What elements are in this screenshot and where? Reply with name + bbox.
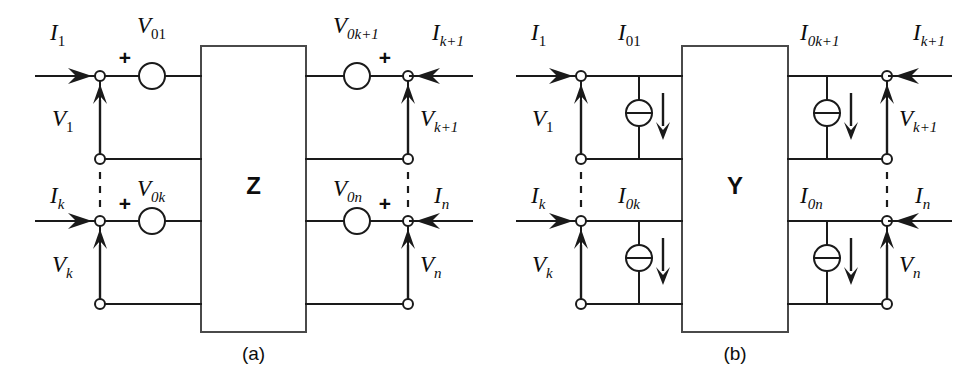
- block-y-label: Y: [727, 172, 743, 199]
- label-vk-a: Vk: [52, 252, 73, 281]
- terminal-node-portk-bottom-a: [95, 299, 105, 309]
- label-vk1-b: Vk+1: [899, 106, 937, 135]
- label-vk1-a: Vk+1: [420, 106, 458, 135]
- voltage-source-v0k1: [344, 63, 370, 89]
- label-i01-b: I01: [617, 20, 641, 49]
- terminal-node-portk-top-b: [576, 216, 586, 226]
- panel-a: Z I1 V01 + V1 Ik V0k +: [36, 13, 472, 364]
- polarity-plus-v01: +: [119, 46, 131, 69]
- label-i0k-b: I0k: [617, 183, 640, 212]
- terminal-node-port1-top-b: [576, 71, 586, 81]
- circuit-svg: Z I1 V01 + V1 Ik V0k +: [0, 0, 980, 384]
- label-ik1-a: Ik+1: [431, 20, 464, 49]
- label-in-b: In: [914, 183, 930, 212]
- voltage-source-v01: [139, 63, 165, 89]
- caption-panel-a: (a): [242, 343, 265, 364]
- polarity-plus-v0k: +: [119, 192, 131, 215]
- label-v01-a: V01: [137, 13, 166, 42]
- polarity-plus-v0n: +: [379, 192, 391, 215]
- label-vn-b: Vn: [899, 252, 921, 281]
- terminal-node-portn-bottom-a: [403, 299, 413, 309]
- label-v0k-a: V0k: [137, 176, 166, 205]
- label-v1-b: V1: [532, 106, 554, 135]
- terminal-node-portk1-bottom-b: [882, 154, 892, 164]
- circuit-figure: Z I1 V01 + V1 Ik V0k +: [0, 0, 980, 384]
- polarity-plus-v0k1: +: [379, 46, 391, 69]
- label-vk-b: Vk: [532, 252, 553, 281]
- label-i1-a: I1: [49, 20, 65, 49]
- voltage-source-v0k: [139, 208, 165, 234]
- label-i1-b: I1: [530, 20, 546, 49]
- panel-b: Y I1 V1 I01 Ik Vk: [517, 20, 951, 364]
- terminal-node-port1-top-a: [95, 71, 105, 81]
- label-v1-a: V1: [52, 106, 74, 135]
- label-ik-a: Ik: [49, 183, 65, 212]
- block-z-label: Z: [246, 172, 261, 199]
- terminal-node-port1-bottom-a: [95, 154, 105, 164]
- label-vn-a: Vn: [420, 252, 442, 281]
- label-i0n-b: I0n: [799, 183, 823, 212]
- label-v0k1-a: V0k+1: [333, 13, 379, 42]
- terminal-node-port1-bottom-b: [576, 154, 586, 164]
- label-ik-b: Ik: [530, 183, 546, 212]
- label-i0k1-b: I0k+1: [799, 20, 839, 49]
- voltage-source-v0n: [344, 208, 370, 234]
- label-ik1-b: Ik+1: [912, 20, 945, 49]
- terminal-node-portk1-bottom-a: [403, 154, 413, 164]
- label-in-a: In: [433, 183, 449, 212]
- label-v0n-a: V0n: [333, 176, 362, 205]
- terminal-node-portk-bottom-b: [576, 299, 586, 309]
- terminal-node-portn-bottom-b: [882, 299, 892, 309]
- terminal-node-portk-top-a: [95, 216, 105, 226]
- caption-panel-b: (b): [723, 343, 746, 364]
